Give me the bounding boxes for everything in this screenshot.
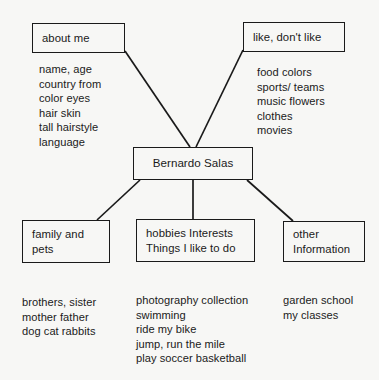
detail-line: clothes [257,109,325,124]
detail-line: mother father [22,310,96,325]
node-hobbies-interests-label-1: hobbies Interests [146,226,254,241]
detail-line: jump, run the mile [136,337,248,352]
detail-line: name, age [39,62,101,77]
node-about-me[interactable]: about me [32,23,125,53]
detail-line: ride my bike [136,322,248,337]
node-like-dont-like[interactable]: like, don't like [243,22,345,52]
details-family-and-pets: brothers, sister mother father dog cat r… [22,295,96,339]
detail-line: food colors [257,65,325,80]
concept-map-canvas: about me name, age country from color ey… [0,0,379,380]
detail-line: play soccer basketball [136,351,248,366]
detail-line: music flowers [257,94,325,109]
node-family-and-pets[interactable]: family and pets [22,220,110,263]
details-about-me: name, age country from color eyes hair s… [39,62,101,150]
detail-line: garden school [283,293,353,308]
detail-line: swimming [136,308,248,323]
node-center-bernardo-salas[interactable]: Bernardo Salas [133,147,253,180]
node-hobbies-interests[interactable]: hobbies Interests Things I like to do [136,219,255,262]
detail-line: my classes [283,308,353,323]
node-other-information-label-1: other [293,227,364,242]
detail-line: hair skin [39,106,101,121]
detail-line: language [39,135,101,150]
node-family-and-pets-label-2: pets [32,242,109,257]
node-other-information[interactable]: other Information [283,221,365,262]
details-hobbies-interests: photography collection swimming ride my … [136,293,248,366]
detail-line: tall hairstyle [39,120,101,135]
details-like-dont-like: food colors sports/ teams music flowers … [257,65,325,138]
connector-about-me [125,51,190,147]
node-about-me-label: about me [42,31,124,46]
detail-line: color eyes [39,91,101,106]
connector-family [97,180,140,220]
node-hobbies-interests-label-2: Things I like to do [146,241,254,256]
details-other-information: garden school my classes [283,293,353,322]
detail-line: movies [257,123,325,138]
detail-line: sports/ teams [257,80,325,95]
node-like-dont-like-label: like, don't like [253,30,344,45]
detail-line: country from [39,77,101,92]
node-other-information-label-2: Information [293,242,364,257]
connector-like [196,50,243,147]
node-center-label: Bernardo Salas [153,156,234,171]
detail-line: dog cat rabbits [22,324,96,339]
node-family-and-pets-label-1: family and [32,227,109,242]
connector-other [247,180,293,221]
detail-line: photography collection [136,293,248,308]
detail-line: brothers, sister [22,295,96,310]
